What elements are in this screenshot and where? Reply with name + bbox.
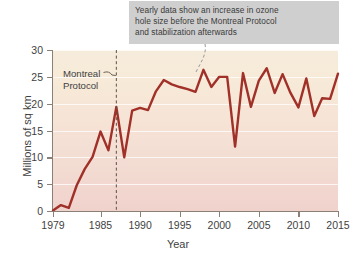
x-axis-tick: [338, 211, 339, 217]
x-axis-tick-label: 2005: [247, 219, 270, 231]
x-axis-tick: [140, 211, 141, 217]
x-axis-tick-label: 2010: [287, 219, 310, 231]
x-axis-tick-label: 1985: [89, 219, 112, 231]
chart-figure: Yearly data show an increase in ozone ho…: [0, 0, 356, 261]
x-axis-tick-label: 1979: [41, 219, 64, 231]
x-axis-tick-label: 2000: [208, 219, 231, 231]
y-axis-tick-label: 30: [31, 44, 43, 56]
x-axis-tick: [259, 211, 260, 217]
y-axis-tick: [47, 157, 53, 158]
y-axis-tick-label: 15: [31, 125, 43, 137]
x-axis-tick: [219, 211, 220, 217]
x-axis-tick: [101, 211, 102, 217]
x-axis-tick-label: 2015: [326, 219, 349, 231]
x-axis-tick-label: 1995: [168, 219, 191, 231]
y-axis-tick: [47, 131, 53, 132]
callout-leader-line: [196, 44, 205, 72]
x-axis-tick: [298, 211, 299, 217]
y-axis-tick-label: 20: [31, 98, 43, 110]
y-axis-tick: [47, 104, 53, 105]
y-axis-tick-label: 25: [31, 71, 43, 83]
x-axis-tick: [53, 211, 54, 217]
y-axis-tick: [47, 77, 53, 78]
montreal-protocol-leader-line: [104, 72, 116, 76]
y-axis-tick-label: 0: [37, 205, 43, 217]
y-axis-tick-label: 10: [31, 151, 43, 163]
y-axis-tick: [47, 184, 53, 185]
x-axis-tick: [180, 211, 181, 217]
y-axis-tick-label: 5: [37, 178, 43, 190]
y-axis-tick: [47, 50, 53, 51]
data-line-ozone-hole-area: [53, 68, 338, 210]
x-axis-tick-label: 1990: [128, 219, 151, 231]
